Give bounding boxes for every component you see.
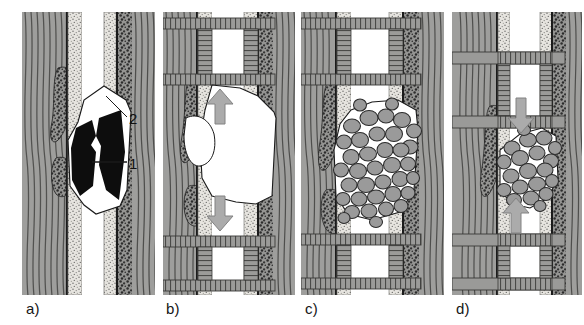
panel-b-drift-bar-3 — [163, 236, 275, 247]
panel-label-a: a) — [26, 300, 40, 317]
panel-c-content — [301, 12, 444, 296]
panel-b-pillar-left-upper — [198, 29, 212, 74]
panel-d-pillar-left-lower — [498, 246, 510, 278]
panel-b-pillar-left-lower — [198, 247, 212, 280]
panel-d-pillar-left-upper — [498, 64, 510, 116]
mining-cross-section-diagram — [0, 0, 584, 325]
callout-2-label: 2 — [129, 110, 137, 127]
panel-c-drift-bar-4 — [301, 278, 421, 289]
panel-label-b: b) — [166, 300, 180, 317]
panel-b-pillar-right-lower — [244, 247, 258, 280]
panel-b-pillar-right-upper — [244, 29, 258, 74]
panel-d-drift-bar-3-hatch — [498, 234, 552, 246]
callout-1-label: 1 — [129, 155, 137, 172]
panel-c-drift-bar-1 — [301, 18, 421, 29]
panel-c-drift-bar-3 — [301, 234, 421, 245]
panel-d-content — [452, 12, 584, 296]
panel-c-pillar-right-lower — [389, 245, 403, 278]
panel-label-d: d) — [456, 300, 470, 317]
panel-b-drift-bar-1 — [163, 18, 275, 29]
panel-d-pillar-right-lower — [540, 246, 552, 278]
panel-d-drift-bar-1-hatch — [498, 52, 552, 64]
panel-d-drift-bar-4-hatch — [498, 278, 552, 290]
panel-a-content — [22, 12, 157, 296]
panel-c-pillar-left-upper — [337, 29, 351, 74]
panel-b-drift-bar-2 — [163, 74, 275, 85]
panel-c-pillar-right-upper — [389, 29, 403, 74]
panel-label-c: c) — [305, 300, 318, 317]
panel-d-pillar-right-upper — [540, 64, 552, 116]
panel-b-drift-bar-4 — [163, 280, 275, 291]
figure-root: 2 1 a) b) c) d) — [0, 0, 584, 325]
panel-b-content — [163, 12, 298, 296]
panel-c-drift-bar-2 — [301, 74, 421, 85]
panel-c-pillar-left-lower — [337, 245, 351, 278]
